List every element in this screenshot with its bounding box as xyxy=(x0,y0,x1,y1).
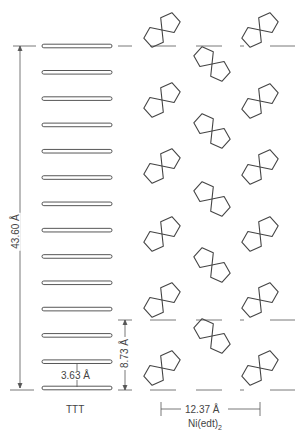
ni-edt2-molecule xyxy=(242,13,278,48)
cell-width-label: 12.37 Å xyxy=(183,404,221,415)
ni-edt2-molecule xyxy=(144,83,180,118)
ttt-molecule-bar xyxy=(42,334,112,338)
stack-spacing-label: 3.63 Å xyxy=(61,370,90,381)
ttt-molecule-bar xyxy=(42,202,112,206)
ttt-molecule-bar xyxy=(42,71,112,75)
ttt-molecule-bar xyxy=(42,123,112,127)
ttt-molecule-bar xyxy=(42,149,112,153)
ttt-molecule-bar xyxy=(42,255,112,259)
ni-edt2-molecule xyxy=(144,13,180,48)
ni-edt2-molecule xyxy=(242,351,278,386)
total-height-label: 43.60 Å xyxy=(10,212,21,250)
ttt-label: TTT xyxy=(66,404,84,415)
ttt-molecule-bar xyxy=(42,97,112,101)
ni-edt2-molecule xyxy=(144,149,180,184)
ni-edt2-molecule xyxy=(242,84,278,119)
ni-edt2-molecules xyxy=(144,13,278,386)
ni-edt2-molecule xyxy=(144,217,180,252)
ni-edt2-molecule xyxy=(194,114,230,149)
ni-edt2-subscript: 2 xyxy=(218,424,222,431)
ni-edt2-molecule xyxy=(194,248,230,283)
ttt-molecule-bar xyxy=(42,44,112,48)
ttt-molecule-bar xyxy=(42,360,112,364)
ni-edt2-molecule xyxy=(242,283,278,318)
ni-edt2-molecule xyxy=(194,47,230,82)
ni-edt2-molecule xyxy=(194,319,230,354)
crystal-structure-diagram xyxy=(0,0,304,443)
ni-edt2-molecule xyxy=(242,150,278,185)
ttt-molecule-bar xyxy=(42,281,112,285)
ttt-molecule-bar xyxy=(42,176,112,180)
ttt-molecule-bar xyxy=(42,228,112,232)
cell-height-label: 8.73 Å xyxy=(119,337,130,370)
ttt-stack xyxy=(42,44,112,390)
ni-edt2-molecule xyxy=(194,182,230,217)
ttt-molecule-bar xyxy=(42,307,112,311)
ni-edt2-molecule xyxy=(144,351,180,386)
ni-edt2-label: Ni(edt)2 xyxy=(188,418,222,431)
ni-edt2-name: Ni(edt) xyxy=(188,418,218,429)
ni-edt2-molecule xyxy=(144,283,180,318)
ni-edt2-molecule xyxy=(242,217,278,252)
